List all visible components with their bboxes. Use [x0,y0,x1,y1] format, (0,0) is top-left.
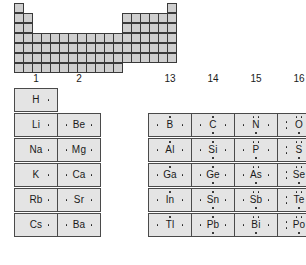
valence-electron-dot [212,141,214,143]
valence-electron-dot [212,207,214,209]
element-cell-Ba[interactable]: Ba [57,213,101,237]
element-symbol: Po [293,220,306,230]
lewis-symbol-In: In [155,190,185,210]
valence-electron-dot [212,116,214,118]
valence-electron-dot [258,141,260,143]
element-cell-Ge[interactable]: Ge [191,163,235,187]
group-number-16: 16 [277,72,306,86]
element-symbol: Ca [72,170,85,180]
valence-electron-dot [212,132,214,134]
lewis-symbol-Se: Se [284,165,306,185]
valence-electron-dot [298,157,300,159]
valence-electron-dot [48,99,50,101]
valence-electron-dot [243,124,245,126]
element-cell-C[interactable]: C [191,113,235,137]
element-cell-Sb[interactable]: Sb [234,188,278,212]
valence-electron-dot [212,157,214,159]
element-symbol: Al [165,145,174,155]
valence-electron-dot [182,224,184,226]
valence-electron-dot [296,141,298,143]
valence-electron-dot [91,199,93,201]
element-symbol: N [252,120,259,130]
valence-electron-dot [296,216,298,218]
element-cell-Pb[interactable]: Pb [191,213,235,237]
valence-electron-dot [298,207,300,209]
valence-electron-dot [253,191,255,193]
silhouette-cell [167,33,177,43]
element-cell-As[interactable]: As [234,163,278,187]
valence-electron-dot [169,166,171,168]
element-cell-B[interactable]: B [148,113,192,137]
element-cell-S[interactable]: S [277,138,306,162]
element-cell-Cs[interactable]: Cs [14,213,58,237]
lewis-symbol-Po: Po [284,215,306,235]
element-cell-Bi[interactable]: Bi [234,213,278,237]
element-cell-Ca[interactable]: Ca [57,163,101,187]
valence-electron-dot [66,199,68,201]
element-symbol: Li [32,120,40,130]
valence-electron-dot [243,174,245,176]
group-number-14: 14 [191,72,235,86]
element-cell-Ga[interactable]: Ga [148,163,192,187]
element-cell-Si[interactable]: Si [191,138,235,162]
lewis-symbol-Mg: Mg [64,140,94,160]
valence-electron-dot [200,149,202,151]
silhouette-cell [167,3,177,13]
element-cell-Li[interactable]: Li [14,113,58,137]
valence-electron-dot [301,191,303,193]
silhouette-cell [167,53,177,63]
valence-electron-dot [268,174,270,176]
element-cell-Be[interactable]: Be [57,113,101,137]
valence-electron-dot [225,149,227,151]
valence-electron-dot [258,166,260,168]
valence-electron-dot [243,224,245,226]
valence-electron-dot [157,149,159,151]
valence-electron-dot [253,216,255,218]
valence-electron-dot [200,174,202,176]
valence-electron-dot [225,224,227,226]
group-number-2: 2 [57,72,101,86]
lewis-symbol-K: K [21,165,51,185]
valence-electron-dot [66,174,68,176]
element-cell-Po[interactable]: Po [277,213,306,237]
silhouette-row [14,33,176,43]
element-symbol: O [295,120,303,130]
element-cell-Sr[interactable]: Sr [57,188,101,212]
valence-electron-dot [255,207,257,209]
element-cell-Mg[interactable]: Mg [57,138,101,162]
valence-electron-dot [91,174,93,176]
element-cell-N[interactable]: N [234,113,278,137]
valence-electron-dot [268,224,270,226]
element-cell-O[interactable]: O [277,113,306,137]
valence-electron-dot [286,202,288,204]
lewis-symbol-Pb: Pb [198,215,228,235]
element-cell-Sn[interactable]: Sn [191,188,235,212]
element-symbol: B [167,120,174,130]
element-cell-Rb[interactable]: Rb [14,188,58,212]
element-cell-Te[interactable]: Te [277,188,306,212]
element-cell-In[interactable]: In [148,188,192,212]
element-cell-Tl[interactable]: Tl [148,213,192,237]
valence-electron-dot [169,216,171,218]
element-cell-Na[interactable]: Na [14,138,58,162]
lewis-symbol-As: As [241,165,271,185]
valence-electron-dot [253,141,255,143]
valence-electron-dot [301,141,303,143]
element-cell-Al[interactable]: Al [148,138,192,162]
valence-electron-dot [91,224,93,226]
lewis-symbol-Sr: Sr [64,190,94,210]
lewis-symbol-Na: Na [21,140,51,160]
element-symbol: As [250,170,262,180]
lewis-symbol-Sn: Sn [198,190,228,210]
element-cell-H[interactable]: H [14,88,58,112]
valence-electron-dot [255,182,257,184]
element-cell-Se[interactable]: Se [277,163,306,187]
element-cell-P[interactable]: P [234,138,278,162]
valence-electron-dot [298,232,300,234]
silhouette-row [14,23,176,33]
silhouette-cell [167,43,177,53]
element-cell-K[interactable]: K [14,163,58,187]
lewis-symbol-H: H [21,90,51,110]
valence-electron-dot [48,124,50,126]
valence-electron-dot [258,216,260,218]
